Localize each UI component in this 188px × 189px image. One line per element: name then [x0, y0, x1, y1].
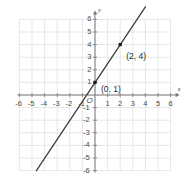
x-tick-label-4: 4: [143, 100, 147, 108]
y-tick-label--5: -5: [83, 154, 90, 162]
x-tick-label-2: 2: [118, 100, 122, 108]
x-tick-label--2: -2: [66, 100, 73, 108]
x-tick-label--5: -5: [28, 100, 35, 108]
y-tick-label--4: -4: [83, 141, 90, 149]
y-axis-arrow-icon: [93, 10, 97, 14]
graph-canvas: [0, 0, 188, 189]
point-label-0: (0, 1): [101, 85, 121, 94]
x-tick-label-6: 6: [169, 100, 173, 108]
y-tick-label-1: 1: [87, 78, 91, 86]
y-tick-label-6: 6: [87, 15, 91, 23]
y-tick-label--1: -1: [83, 104, 90, 112]
point-label-1: (2, 4): [126, 52, 146, 61]
x-tick-label-1: 1: [106, 100, 110, 108]
y-tick-label--2: -2: [83, 116, 90, 124]
data-point-0: [93, 81, 96, 84]
x-tick-label-5: 5: [156, 100, 160, 108]
y-tick-label-3: 3: [87, 53, 91, 61]
y-tick-label--3: -3: [83, 129, 90, 137]
y-tick-label-2: 2: [87, 66, 91, 74]
y-tick-label-5: 5: [87, 28, 91, 36]
x-tick-label--3: -3: [53, 100, 60, 108]
x-tick-label-3: 3: [131, 100, 135, 108]
x-tick-label--6: -6: [15, 100, 22, 108]
origin-label: O: [87, 97, 93, 105]
y-tick-label--6: -6: [83, 167, 90, 175]
y-axis-label: y: [98, 7, 101, 14]
y-tick-label-4: 4: [87, 41, 91, 49]
x-tick-label--4: -4: [40, 100, 47, 108]
coordinate-plane-graph: -6-5-4-3-2-1123456654321-1-2-3-4-5-6Oxy(…: [0, 0, 188, 189]
x-axis-label: x: [178, 86, 181, 93]
x-axis-arrow-icon: [176, 93, 180, 97]
data-point-1: [119, 43, 122, 46]
